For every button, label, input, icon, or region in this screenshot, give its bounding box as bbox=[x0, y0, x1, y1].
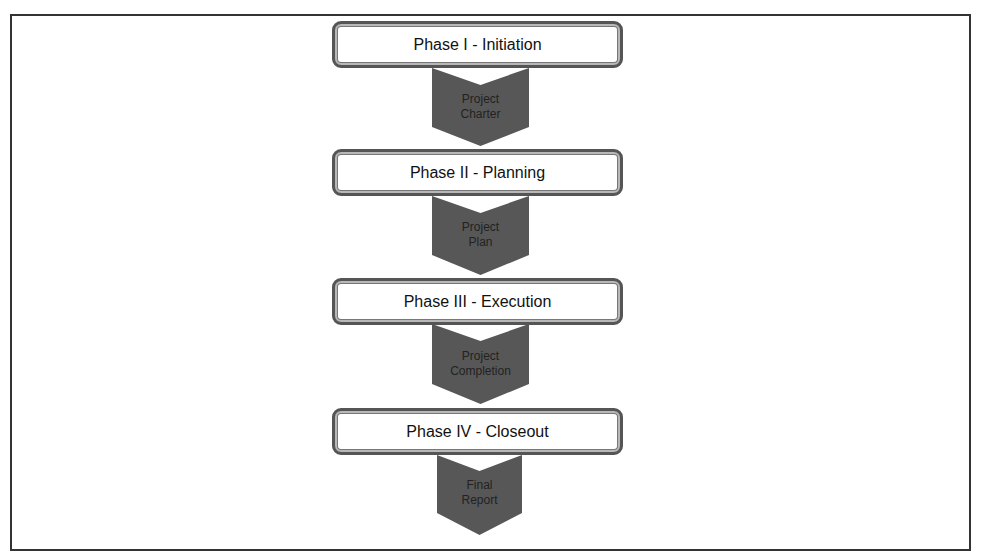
phase-label: Phase I - Initiation bbox=[413, 36, 541, 54]
phase-box-execution: Phase III - Execution bbox=[332, 278, 623, 325]
deliverable-label: Report bbox=[461, 493, 498, 507]
deliverable-label: Final bbox=[466, 478, 492, 492]
deliverable-label: Project bbox=[462, 220, 500, 234]
deliverable-label: Project bbox=[462, 92, 500, 106]
deliverable-label: Project bbox=[462, 349, 500, 363]
phase-box-planning: Phase II - Planning bbox=[332, 149, 623, 196]
phase-box-initiation: Phase I - Initiation bbox=[332, 21, 623, 68]
phase-label: Phase III - Execution bbox=[404, 293, 552, 311]
phase-box-closeout: Phase IV - Closeout bbox=[332, 408, 623, 455]
phase-label: Phase IV - Closeout bbox=[406, 423, 548, 441]
deliverable-label: Plan bbox=[468, 235, 492, 249]
phase-label: Phase II - Planning bbox=[410, 164, 545, 182]
deliverable-label: Completion bbox=[450, 364, 511, 378]
deliverable-label: Charter bbox=[460, 107, 500, 121]
